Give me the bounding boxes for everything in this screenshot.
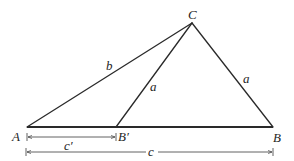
dimension-label-c: c [148, 144, 154, 159]
vertex-label-B-prime: B′ [118, 129, 129, 144]
side-label-a-inner: a [150, 79, 157, 94]
side-label-a-outer: a [243, 71, 250, 86]
vertex-label-C: C [188, 7, 197, 22]
vertex-label-A: A [11, 129, 20, 144]
dimension-label-c-prime: c′ [64, 138, 73, 153]
side-a-BprimeC [116, 23, 192, 127]
vertex-label-B: B [273, 130, 281, 145]
side-b-AC [27, 23, 192, 127]
triangle-diagram: C A B′ B b a a c′ c [0, 0, 294, 161]
side-a-CB [192, 23, 273, 127]
side-label-b: b [106, 58, 113, 73]
